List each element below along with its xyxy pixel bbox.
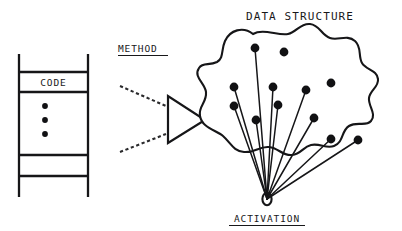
method-lead-line-lower [120,134,166,152]
node-n7 [230,102,239,111]
method-arrowhead-triangle [168,96,205,143]
node-n6 [302,86,311,95]
activation-label: ACTIVATION [234,213,300,224]
data-structure-group: DATA STRUCTURE [197,10,378,226]
code-label: CODE [40,77,66,88]
method-label: METHOD [118,43,158,54]
node-n2 [280,48,289,57]
code-block-group: CODE [19,54,88,197]
method-arrow-group: METHOD [118,43,205,152]
ellipsis-dot-3 [42,131,48,137]
diagram-svg: CODE METHOD DATA STRUCTURE [0,0,402,231]
diagram-canvas: CODE METHOD DATA STRUCTURE [0,0,402,231]
node-n12 [354,136,363,145]
node-n5 [327,79,336,88]
node-n9 [252,116,261,125]
node-n8 [274,101,283,110]
data-structure-outline [197,24,378,155]
code-vertical-ellipsis [42,103,48,137]
node-n10 [310,114,319,123]
node-n3 [230,83,239,92]
node-n1 [251,44,260,53]
node-n4 [269,83,278,92]
ellipsis-dot-2 [42,117,48,123]
node-n11 [327,135,336,144]
ellipsis-dot-1 [42,103,48,109]
method-lead-line-upper [120,86,166,106]
data-structure-label: DATA STRUCTURE [246,10,354,23]
